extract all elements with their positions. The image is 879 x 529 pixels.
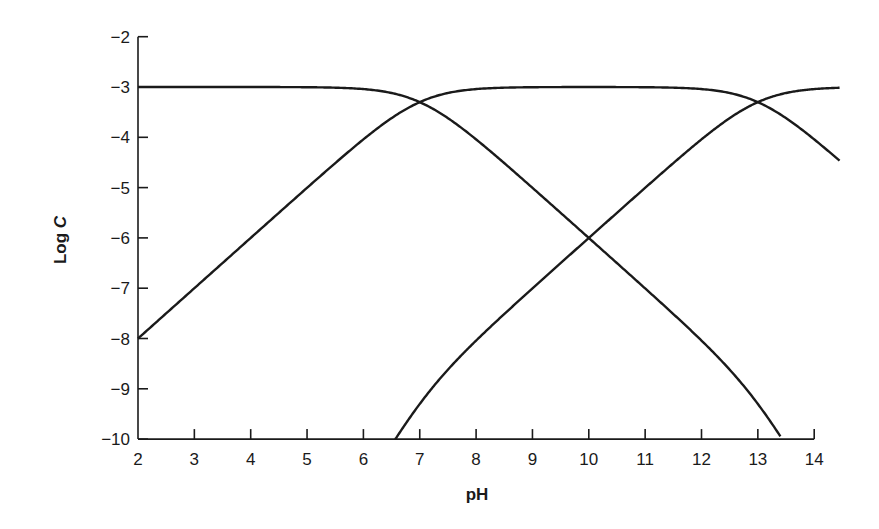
curve-h2a [138, 87, 780, 436]
x-tick-label: 8 [471, 450, 480, 469]
y-tick-label: −3 [111, 78, 130, 97]
y-tick-label: −8 [111, 330, 130, 349]
x-tick-label: 2 [133, 450, 142, 469]
x-tick-label: 10 [579, 450, 598, 469]
y-axis-title-italic: C [51, 215, 70, 228]
curve-ha [138, 87, 840, 338]
y-axis-title-plain: Log [51, 228, 70, 264]
y-tick-label: −7 [111, 279, 130, 298]
x-tick-label: 12 [692, 450, 711, 469]
y-tick-label: −9 [111, 380, 130, 399]
y-tick-label: −10 [101, 430, 130, 449]
x-tick-label: 7 [415, 450, 424, 469]
x-tick-label: 3 [190, 450, 199, 469]
x-tick-label: 6 [359, 450, 368, 469]
y-tick-label: −6 [111, 229, 130, 248]
x-axis-title: pH [466, 485, 489, 504]
x-tick-label: 13 [748, 450, 767, 469]
y-tick-label: −4 [111, 128, 130, 147]
x-tick-label: 5 [302, 450, 311, 469]
x-tick-label: 14 [805, 450, 824, 469]
y-tick-label: −2 [111, 28, 130, 47]
x-tick-label: 4 [246, 450, 255, 469]
x-tick-label: 9 [528, 450, 537, 469]
y-tick-label: −5 [111, 179, 130, 198]
y-axis-title: Log C [51, 215, 70, 264]
log-concentration-chart: −2−3−4−5−6−7−8−9−10234567891011121314 pH… [0, 0, 879, 529]
x-tick-label: 11 [636, 450, 654, 469]
axes: −2−3−4−5−6−7−8−9−10234567891011121314 [101, 28, 824, 469]
curves [138, 87, 840, 439]
